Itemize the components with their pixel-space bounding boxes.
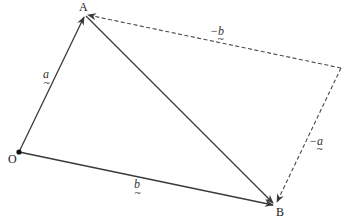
vector-oa-line	[19, 17, 84, 152]
tilde-under-neg-b: ~	[217, 34, 225, 44]
vector-ob-line	[19, 152, 273, 205]
vector-neg-b-dashed-line	[88, 15, 341, 68]
vector-diagram: A O B a ~ −b ~ b ~ −a ~	[0, 0, 349, 224]
point-label-a: A	[79, 0, 88, 14]
tilde-under-b: ~	[134, 188, 142, 198]
point-label-b: B	[276, 205, 284, 219]
origin-dot-icon	[16, 149, 21, 154]
point-label-o: O	[8, 152, 17, 166]
tilde-under-a: ~	[43, 78, 51, 88]
diagram-svg: A O B a ~ −b ~ b ~ −a ~	[0, 0, 349, 224]
vector-ab-line	[86, 16, 273, 203]
tilde-under-neg-a: ~	[316, 144, 324, 154]
